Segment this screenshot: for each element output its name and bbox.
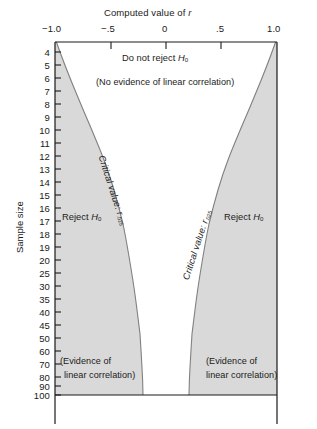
annotation-evidence-left-line1: (Evidence of [60, 357, 111, 366]
y-tick-label: 11 [18, 139, 50, 149]
correlation-critical-value-chart: Computed value of r −1.0 −.5 0 .5 1.0 Sa… [0, 0, 317, 429]
x-axis-ticks [111, 42, 221, 49]
annotation-evidence-right-line2: linear correlation) [206, 371, 277, 380]
y-tick-label: 9 [18, 113, 50, 123]
reject-right-text: Reject [224, 212, 253, 222]
annotation-no-evidence: (No evidence of linear correlation) [96, 78, 234, 87]
x-tick-label-neg-half: −.5 [101, 24, 115, 34]
y-tick-label: 13 [18, 165, 50, 175]
y-tick-label: 17 [18, 217, 50, 227]
reject-right-subscript: 0 [260, 215, 263, 222]
x-axis-title-variable: r [188, 7, 191, 18]
reject-left-subscript: 0 [98, 215, 101, 222]
y-tick-label: 30 [18, 282, 50, 292]
x-tick-label-zero: 0 [162, 24, 167, 34]
y-tick-label: 100 [14, 391, 50, 401]
y-tick-label: 19 [18, 243, 50, 253]
x-tick-label-pos1: 1.0 [267, 24, 281, 34]
annotation-evidence-left-line2: linear correlation) [64, 371, 135, 380]
do-not-reject-variable: H [178, 53, 185, 63]
annotation-evidence-right-line1: (Evidence of [206, 357, 257, 366]
y-tick-label: 14 [18, 178, 50, 188]
y-tick-label: 35 [18, 295, 50, 305]
y-tick-label: 8 [18, 100, 50, 110]
annotation-reject-left: Reject H0 [62, 213, 102, 222]
y-tick-label: 6 [18, 74, 50, 84]
y-tick-label: 15 [18, 191, 50, 201]
annotation-reject-right: Reject H0 [224, 213, 264, 222]
x-tick-label-pos-half: .5 [216, 24, 224, 34]
y-tick-label: 60 [18, 347, 50, 357]
annotation-do-not-reject: Do not reject H0 [122, 54, 188, 63]
y-tick-label: 5 [18, 61, 50, 71]
y-tick-label: 4 [18, 48, 50, 58]
x-axis-title: Computed value of r [104, 8, 191, 18]
y-tick-label: 40 [18, 308, 50, 318]
y-tick-label: 16 [18, 204, 50, 214]
y-tick-label: 18 [18, 230, 50, 240]
do-not-reject-subscript: 0 [185, 56, 188, 63]
do-not-reject-text: Do not reject [122, 53, 178, 63]
x-axis-title-text: Computed value of [104, 7, 188, 18]
y-tick-label: 45 [18, 321, 50, 331]
y-tick-label: 7 [18, 87, 50, 97]
y-tick-label: 25 [18, 269, 50, 279]
y-tick-label: 70 [18, 360, 50, 370]
x-tick-label-neg1: −1.0 [42, 24, 61, 34]
y-tick-label: 20 [18, 256, 50, 266]
y-tick-label: 50 [18, 334, 50, 344]
reject-left-text: Reject [62, 212, 91, 222]
y-tick-label: 10 [18, 126, 50, 136]
y-tick-label: 12 [18, 152, 50, 162]
